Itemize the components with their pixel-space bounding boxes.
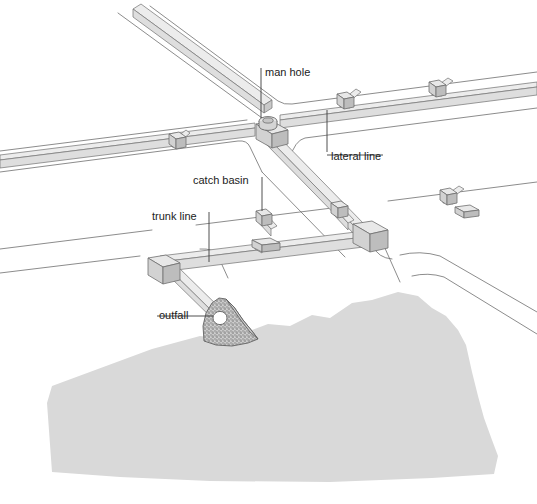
pipe-main-right-face xyxy=(280,87,537,128)
pipe-main-left-top xyxy=(0,123,255,160)
manhole-cover xyxy=(263,118,273,123)
road-edge-second-upper-left xyxy=(0,230,152,249)
pipe-main-left-face xyxy=(0,128,255,168)
catch-basin-cross-low-side xyxy=(338,206,348,218)
outfall-headwall-group xyxy=(203,298,258,346)
catch-basin-trunk-mid-side xyxy=(262,243,280,252)
road-edge-nw-left xyxy=(118,13,262,118)
street-network xyxy=(0,6,537,334)
label-trunk-line: trunk line xyxy=(152,210,197,222)
road-edge-second-lower-left xyxy=(0,256,140,273)
storm-sewer-isometric-scene: man hole lateral line catch basin trunk … xyxy=(0,0,537,504)
pipe-main-right-top xyxy=(280,82,537,120)
diagram-canvas: man hole lateral line catch basin trunk … xyxy=(0,0,537,504)
label-outfall: outfall xyxy=(159,309,188,321)
pipe-cross-top xyxy=(266,132,366,230)
junction-box-right-side xyxy=(370,230,388,252)
pipe-nw-face xyxy=(133,9,264,113)
label-man-hole: man hole xyxy=(265,66,310,78)
receiving-water-body xyxy=(47,292,498,482)
catch-basin-ne1-side xyxy=(344,97,354,109)
outfall-pipe-opening xyxy=(213,311,227,324)
catch-basin-e-side xyxy=(447,193,457,205)
label-catch-basin: catch basin xyxy=(193,174,249,186)
catch-basin-labeled-side xyxy=(262,214,272,226)
pipe-network xyxy=(0,4,537,325)
catch-basin-ne2-side xyxy=(436,85,446,97)
label-lateral-line: lateral line xyxy=(331,150,381,162)
trunk-end-box-side xyxy=(163,263,180,284)
pipe-nw-top xyxy=(133,4,272,105)
road-edge-second-upper-right xyxy=(388,182,537,201)
catch-basin-nw-side xyxy=(176,137,186,149)
